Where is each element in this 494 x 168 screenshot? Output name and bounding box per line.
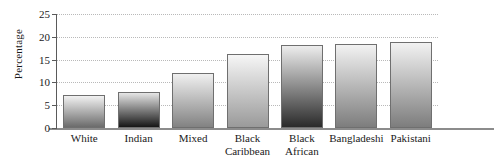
bar <box>390 42 432 128</box>
y-tick-label: 15 <box>39 54 50 66</box>
x-axis-label: BlackAfrican <box>275 132 329 158</box>
x-axis-label-line: African <box>275 145 329 158</box>
bar <box>172 73 214 128</box>
x-axis-label-line: Bangladeshi <box>329 132 383 145</box>
x-axis-label: Pakistani <box>384 132 438 145</box>
bars-group <box>57 14 438 128</box>
x-axis-label: BlackCaribbean <box>220 132 274 158</box>
x-axis-line <box>49 128 494 130</box>
y-tick-label: 0 <box>45 122 51 134</box>
y-tick-label: 20 <box>39 31 50 43</box>
x-axis-label-line: Indian <box>111 132 165 145</box>
bar <box>227 54 269 128</box>
x-axis-label-line: Black <box>275 132 329 145</box>
x-axis-label-line: Black <box>220 132 274 145</box>
x-axis-label-line: Mixed <box>166 132 220 145</box>
x-axis-label: Indian <box>111 132 165 145</box>
y-tick-mark <box>52 128 57 129</box>
bar <box>335 44 377 128</box>
bar <box>63 95 105 128</box>
bar <box>281 45 323 128</box>
x-axis-label: Mixed <box>166 132 220 145</box>
x-axis-label: Bangladeshi <box>329 132 383 145</box>
x-axis-label-line: Pakistani <box>384 132 438 145</box>
bar <box>118 92 160 128</box>
x-axis-label-line: White <box>57 132 111 145</box>
x-axis-label: White <box>57 132 111 145</box>
x-axis-labels: WhiteIndianMixedBlackCaribbeanBlackAfric… <box>57 132 438 168</box>
y-axis-title: Percentage <box>12 14 24 94</box>
y-tick-label: 5 <box>45 99 51 111</box>
y-tick-label: 10 <box>39 76 50 88</box>
x-axis-label-line: Caribbean <box>220 145 274 158</box>
plot-area: 0510152025 <box>57 14 438 128</box>
y-tick-label: 25 <box>39 8 50 20</box>
